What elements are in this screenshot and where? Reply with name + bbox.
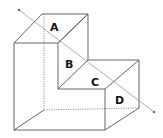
label-d: D (115, 94, 124, 107)
visible-edges (14, 14, 139, 130)
diagram-canvas: A B C D (0, 0, 163, 138)
l-block-diagram: A B C D (0, 0, 163, 138)
section-start-point (18, 9, 20, 11)
label-a: A (50, 21, 59, 34)
label-b: B (65, 58, 73, 71)
section-end-point (153, 111, 155, 113)
label-c: C (91, 76, 99, 89)
section-line (18, 9, 155, 113)
